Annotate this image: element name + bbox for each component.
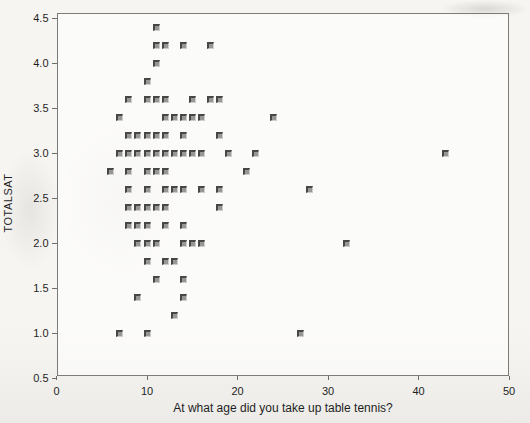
data-point-marker	[144, 78, 151, 85]
x-tick-label: 0	[42, 386, 72, 397]
x-axis-title: At what age did you take up table tennis…	[57, 401, 509, 415]
y-tick-mark	[52, 153, 57, 154]
y-tick-label: 3.0	[23, 148, 49, 159]
data-point-marker	[144, 240, 151, 247]
data-point-marker	[134, 240, 141, 247]
data-point-marker	[243, 168, 250, 175]
data-point-marker	[180, 240, 187, 247]
data-point-marker	[116, 150, 123, 157]
data-point-marker	[225, 150, 232, 157]
y-tick-mark	[52, 333, 57, 334]
y-tick-label: 4.5	[23, 13, 49, 24]
data-point-marker	[171, 312, 178, 319]
data-point-marker	[270, 114, 277, 121]
x-tick-label: 20	[223, 386, 253, 397]
data-point-marker	[189, 150, 196, 157]
data-point-marker	[153, 276, 160, 283]
data-point-marker	[153, 204, 160, 211]
data-point-marker	[180, 42, 187, 49]
x-tick-label: 50	[494, 386, 524, 397]
data-point-marker	[144, 96, 151, 103]
data-point-marker	[153, 96, 160, 103]
y-axis-title: TOTALSAT	[2, 168, 14, 238]
data-point-marker	[162, 168, 169, 175]
data-point-marker	[252, 150, 259, 157]
data-point-marker	[216, 132, 223, 139]
data-point-marker	[162, 114, 169, 121]
x-tick-mark	[418, 376, 419, 380]
data-point-marker	[180, 276, 187, 283]
y-tick-label: 4.0	[23, 58, 49, 69]
data-point-marker	[144, 168, 151, 175]
data-point-marker	[125, 204, 132, 211]
y-tick-mark	[52, 108, 57, 109]
data-point-marker	[153, 60, 160, 67]
data-point-marker	[153, 168, 160, 175]
data-point-marker	[144, 150, 151, 157]
data-point-marker	[162, 42, 169, 49]
y-tick-mark	[52, 63, 57, 64]
data-point-marker	[134, 132, 141, 139]
data-point-marker	[162, 258, 169, 265]
data-point-marker	[144, 132, 151, 139]
data-point-marker	[162, 96, 169, 103]
y-tick-mark	[52, 378, 57, 379]
data-point-marker	[180, 114, 187, 121]
x-tick-label: 30	[313, 386, 343, 397]
data-point-marker	[171, 114, 178, 121]
y-tick-label: 2.5	[23, 193, 49, 204]
data-point-marker	[162, 150, 169, 157]
data-point-marker	[198, 186, 205, 193]
y-tick-mark	[52, 243, 57, 244]
data-point-marker	[144, 186, 151, 193]
data-point-marker	[189, 114, 196, 121]
data-point-marker	[153, 24, 160, 31]
data-point-marker	[134, 294, 141, 301]
x-tick-label: 40	[404, 386, 434, 397]
scatter-plot-figure: 010203040500.51.01.52.02.53.03.54.04.5 T…	[0, 0, 530, 423]
data-point-marker	[144, 204, 151, 211]
data-point-marker	[216, 96, 223, 103]
data-point-marker	[153, 240, 160, 247]
data-point-marker	[116, 114, 123, 121]
data-point-marker	[144, 330, 151, 337]
data-point-marker	[162, 132, 169, 139]
y-tick-label: 2.0	[23, 238, 49, 249]
data-point-marker	[207, 42, 214, 49]
data-point-marker	[189, 96, 196, 103]
y-tick-mark	[52, 18, 57, 19]
data-point-marker	[153, 132, 160, 139]
y-tick-mark	[52, 288, 57, 289]
data-point-marker	[134, 204, 141, 211]
data-point-marker	[306, 186, 313, 193]
data-point-marker	[207, 96, 214, 103]
data-point-marker	[116, 330, 123, 337]
data-point-marker	[144, 258, 151, 265]
data-point-marker	[189, 240, 196, 247]
data-point-marker	[198, 114, 205, 121]
data-point-marker	[343, 240, 350, 247]
y-tick-label: 1.0	[23, 328, 49, 339]
data-point-marker	[125, 96, 132, 103]
x-tick-mark	[328, 376, 329, 380]
data-point-marker	[198, 150, 205, 157]
x-tick-label: 10	[132, 386, 162, 397]
data-point-marker	[162, 222, 169, 229]
plot-area	[57, 13, 510, 376]
data-point-marker	[125, 186, 132, 193]
data-point-marker	[297, 330, 304, 337]
data-point-marker	[171, 258, 178, 265]
data-point-marker	[107, 168, 114, 175]
y-tick-label: 0.5	[23, 373, 49, 384]
x-tick-mark	[147, 376, 148, 380]
data-point-marker	[180, 186, 187, 193]
x-tick-mark	[509, 376, 510, 380]
data-point-marker	[125, 168, 132, 175]
x-tick-mark	[237, 376, 238, 380]
data-point-marker	[180, 294, 187, 301]
data-point-marker	[216, 204, 223, 211]
y-tick-label: 3.5	[23, 103, 49, 114]
data-point-marker	[134, 150, 141, 157]
data-point-marker	[162, 204, 169, 211]
data-point-marker	[180, 222, 187, 229]
